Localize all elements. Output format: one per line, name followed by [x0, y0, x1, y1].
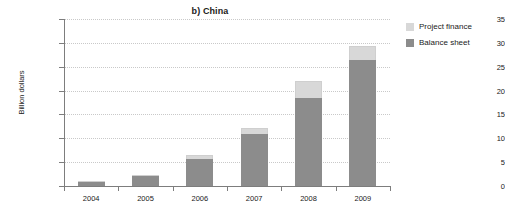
- x-tick-mark: [173, 186, 174, 191]
- gridline: [64, 138, 390, 139]
- x-tick-mark: [336, 186, 337, 191]
- y-tick-mark: [59, 67, 64, 68]
- x-tick-mark: [390, 186, 391, 191]
- legend-label: Project finance: [419, 22, 472, 31]
- legend-swatch-icon: [406, 39, 414, 47]
- bar-group[interactable]: [295, 81, 322, 186]
- bar-segment-project-finance[interactable]: [295, 81, 322, 98]
- bar-group[interactable]: [349, 46, 376, 186]
- bar-segment-balance-sheet[interactable]: [349, 60, 376, 186]
- bar-segment-balance-sheet[interactable]: [295, 98, 322, 186]
- x-tick-mark: [281, 186, 282, 191]
- x-tick-label: 2007: [224, 194, 284, 203]
- plot-background: [64, 19, 390, 186]
- x-tick-mark: [118, 186, 119, 191]
- gridline: [64, 43, 390, 44]
- bar-group[interactable]: [186, 155, 213, 186]
- legend-item[interactable]: Project finance: [406, 22, 472, 31]
- gridline: [64, 162, 390, 163]
- x-tick-label: 2009: [333, 194, 393, 203]
- y-tick-label: 5: [459, 158, 505, 167]
- x-tick-label: 2008: [279, 194, 339, 203]
- bar-segment-project-finance[interactable]: [186, 155, 213, 159]
- legend-label: Balance sheet: [419, 38, 470, 47]
- y-tick-label: 0: [459, 182, 505, 191]
- y-tick-mark: [59, 91, 64, 92]
- bar-segment-project-finance[interactable]: [241, 128, 268, 134]
- y-tick-mark: [59, 138, 64, 139]
- bar-segment-project-finance[interactable]: [132, 175, 159, 176]
- chart-legend: Project financeBalance sheet: [406, 22, 472, 54]
- x-tick-label: 2006: [170, 194, 230, 203]
- chart-figure: b) China Billion dollars 05101520253035 …: [0, 0, 505, 218]
- y-tick-label: 20: [459, 86, 505, 95]
- y-tick-label: 10: [459, 134, 505, 143]
- y-tick-label: 15: [459, 110, 505, 119]
- bar-group[interactable]: [241, 128, 268, 186]
- x-tick-mark: [227, 186, 228, 191]
- bar-segment-project-finance[interactable]: [78, 181, 105, 182]
- bar-group[interactable]: [132, 176, 159, 186]
- bar-segment-balance-sheet[interactable]: [186, 159, 213, 186]
- plot-area: [64, 19, 390, 186]
- gridline: [64, 19, 390, 20]
- legend-swatch-icon: [406, 23, 414, 31]
- x-tick-label: 2004: [61, 194, 121, 203]
- y-tick-mark: [59, 43, 64, 44]
- y-tick-label: 25: [459, 62, 505, 71]
- legend-item[interactable]: Balance sheet: [406, 38, 472, 47]
- x-tick-mark: [64, 186, 65, 191]
- bar-segment-balance-sheet[interactable]: [241, 134, 268, 186]
- x-tick-label: 2005: [116, 194, 176, 203]
- y-tick-mark: [59, 114, 64, 115]
- y-tick-mark: [59, 19, 64, 20]
- bar-segment-balance-sheet[interactable]: [132, 176, 159, 186]
- y-tick-mark: [59, 162, 64, 163]
- gridline: [64, 114, 390, 115]
- gridline: [64, 91, 390, 92]
- bar-segment-project-finance[interactable]: [349, 46, 376, 60]
- y-axis-line: [64, 19, 65, 186]
- gridline: [64, 67, 390, 68]
- chart-title: b) China: [0, 6, 420, 16]
- y-axis-title: Billion dollars: [17, 48, 26, 138]
